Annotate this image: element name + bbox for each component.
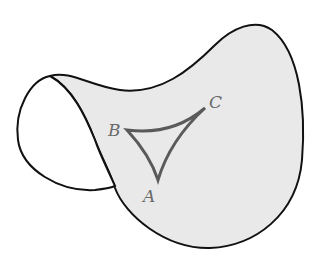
vertex-label-b: B — [107, 120, 121, 140]
vertex-label-a: A — [141, 186, 155, 206]
vertex-label-c: C — [209, 92, 222, 112]
saddle-surface-diagram: B C A — [0, 0, 321, 266]
